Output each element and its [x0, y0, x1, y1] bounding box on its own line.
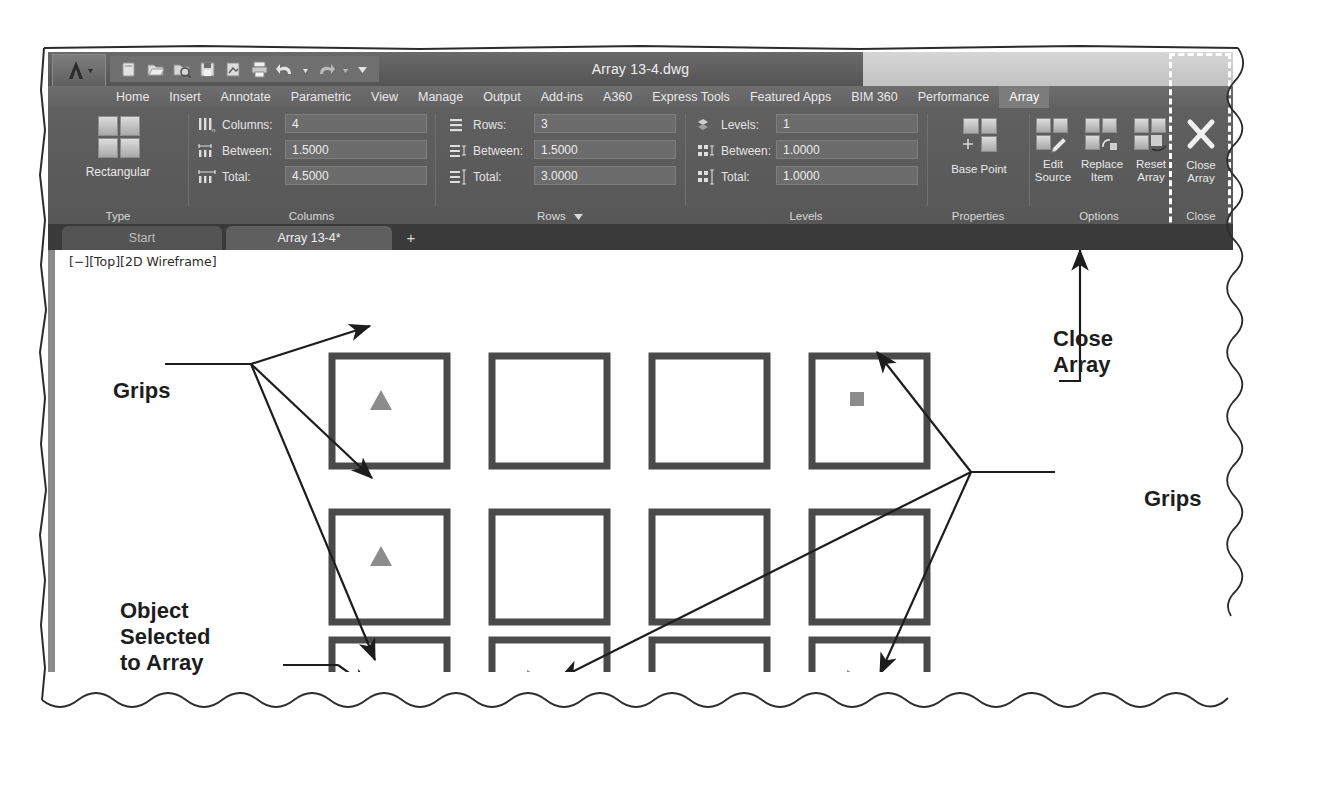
rows-total-input[interactable]: 3.0000	[534, 166, 676, 185]
ribbon-panel-area: Rectangular Type n Columns: 4	[48, 108, 1233, 224]
levels-count-input[interactable]: 1	[776, 114, 918, 133]
panel-label-levels: Levels	[686, 210, 926, 222]
rows-count-input[interactable]: 3	[534, 114, 676, 133]
torn-edge-bottom	[42, 693, 1228, 707]
close-array-label: Close Array	[1053, 326, 1113, 378]
ribbon-tab-a360[interactable]: A360	[593, 86, 642, 108]
ribbon-tab-strip[interactable]: Home Insert Annotate Parametric View Man…	[48, 86, 1233, 108]
leader-line-object-selected	[283, 665, 370, 672]
array-square-r3c1	[332, 640, 447, 672]
array-square-r2c2	[492, 512, 607, 622]
rows-between-label: Between:	[473, 144, 523, 158]
object-selected-arrow	[338, 665, 370, 672]
panel-label-type: Type	[48, 210, 188, 222]
replace-item-button[interactable]: Replace Item	[1074, 116, 1130, 184]
rows-total-row: Total:	[448, 166, 502, 188]
array-drawing	[55, 250, 1233, 672]
levels-total-row: Total:	[696, 166, 750, 188]
leader-lines-grips-right	[560, 352, 1055, 672]
grip-triangle-up-r2c1	[370, 546, 392, 566]
object-selected-line-3: to Array	[120, 650, 211, 676]
ribbon-tab-express-tools[interactable]: Express Tools	[642, 86, 740, 108]
ribbon-tab-manage[interactable]: Manage	[408, 86, 473, 108]
grips-label-right: Grips	[1144, 486, 1201, 512]
ribbon-tab-add-ins[interactable]: Add-ins	[531, 86, 593, 108]
columns-between-row: Between:	[197, 140, 272, 162]
chevron-down-icon[interactable]	[574, 210, 583, 222]
levels-between-icon	[696, 143, 716, 159]
levels-count-row: Levels:	[696, 114, 759, 136]
rectangular-array-label: Rectangular	[48, 165, 188, 179]
rectangular-array-button[interactable]: Rectangular	[48, 114, 188, 179]
array-square-r3c2	[492, 640, 607, 672]
object-selected-label: Object Selected to Array	[120, 598, 211, 676]
file-tab-bar: Start Array 13-4* +	[48, 224, 1233, 250]
ribbon-panel-levels: Levels: 1 Between: 1.0000 Total: 1.0000	[686, 108, 926, 224]
drawing-canvas[interactable]: [−][Top][2D Wireframe]	[48, 250, 1233, 672]
ribbon-tab-annotate[interactable]: Annotate	[211, 86, 281, 108]
array-squares	[332, 356, 927, 672]
panel-label-properties: Properties	[928, 210, 1028, 222]
edit-source-icon	[1033, 116, 1073, 154]
ribbon-tab-featured-apps[interactable]: Featured Apps	[740, 86, 841, 108]
close-array-line-2: Array	[1053, 352, 1113, 378]
rows-between-input[interactable]: 1.5000	[534, 140, 676, 159]
levels-total-icon	[696, 169, 716, 185]
rows-count-icon	[448, 117, 468, 133]
panel-label-rows[interactable]: Rows	[436, 210, 684, 222]
levels-count-label: Levels:	[721, 118, 759, 132]
columns-total-icon	[197, 169, 217, 185]
replace-item-icon	[1082, 116, 1122, 154]
levels-count-icon	[696, 117, 716, 133]
torn-edge-top	[44, 46, 1238, 49]
reset-array-icon	[1131, 116, 1171, 154]
levels-between-input[interactable]: 1.0000	[776, 140, 918, 159]
panel-label-options: Options	[1030, 210, 1168, 222]
edit-source-label-1: Edit	[1028, 158, 1078, 171]
grips-label-left: Grips	[113, 378, 170, 404]
columns-between-icon	[197, 143, 217, 159]
array-square-r3c3	[652, 640, 767, 672]
base-point-icon	[957, 116, 1001, 156]
rows-between-icon	[448, 143, 468, 159]
grip-triangle-up-r1c1	[370, 390, 392, 410]
array-square-r1c2	[492, 356, 607, 466]
close-array-line-1: Close	[1053, 326, 1113, 352]
title-bar: Array 13-4.dwg	[48, 52, 1233, 86]
columns-count-icon: n	[197, 117, 217, 133]
rows-count-label: Rows:	[473, 118, 506, 132]
columns-between-label: Between:	[222, 144, 272, 158]
array-square-r2c1	[332, 512, 447, 622]
columns-count-input[interactable]: 4	[285, 114, 427, 133]
array-square-r3c4	[812, 640, 927, 672]
ribbon-tab-insert[interactable]: Insert	[159, 86, 210, 108]
rows-total-icon	[448, 169, 468, 185]
ribbon-tab-performance[interactable]: Performance	[908, 86, 1000, 108]
grips-left-arrow-2	[251, 364, 372, 478]
columns-total-input[interactable]: 4.5000	[285, 166, 427, 185]
figure-root: Array 13-4.dwg Home Insert Annotate Para…	[0, 0, 1335, 789]
array-square-r1c4	[812, 356, 927, 466]
ribbon-tab-parametric[interactable]: Parametric	[281, 86, 361, 108]
ribbon-tab-home[interactable]: Home	[106, 86, 159, 108]
replace-item-label-1: Replace	[1074, 158, 1130, 171]
ribbon-tab-output[interactable]: Output	[473, 86, 531, 108]
panel-label-rows-text: Rows	[537, 210, 566, 222]
edit-source-button[interactable]: Edit Source	[1028, 116, 1078, 184]
new-file-tab-button[interactable]: +	[398, 228, 424, 248]
ribbon-panel-options: Edit Source Replace Item	[1030, 108, 1168, 224]
svg-text:n: n	[212, 127, 215, 133]
ribbon-tab-array[interactable]: Array	[999, 86, 1049, 108]
panel-label-columns: Columns	[189, 210, 434, 222]
ribbon-tab-view[interactable]: View	[361, 86, 408, 108]
levels-total-label: Total:	[721, 170, 750, 184]
file-tab-array-13-4[interactable]: Array 13-4*	[226, 226, 392, 250]
torn-edge-left	[40, 48, 46, 700]
base-point-button[interactable]: Base Point	[948, 116, 1010, 176]
columns-between-input[interactable]: 1.5000	[285, 140, 427, 159]
file-tab-start[interactable]: Start	[62, 226, 222, 250]
replace-item-label-2: Item	[1074, 171, 1130, 184]
grip-triangle-right-r3c4	[847, 670, 867, 672]
levels-total-input[interactable]: 1.0000	[776, 166, 918, 185]
ribbon-tab-bim-360[interactable]: BIM 360	[841, 86, 908, 108]
